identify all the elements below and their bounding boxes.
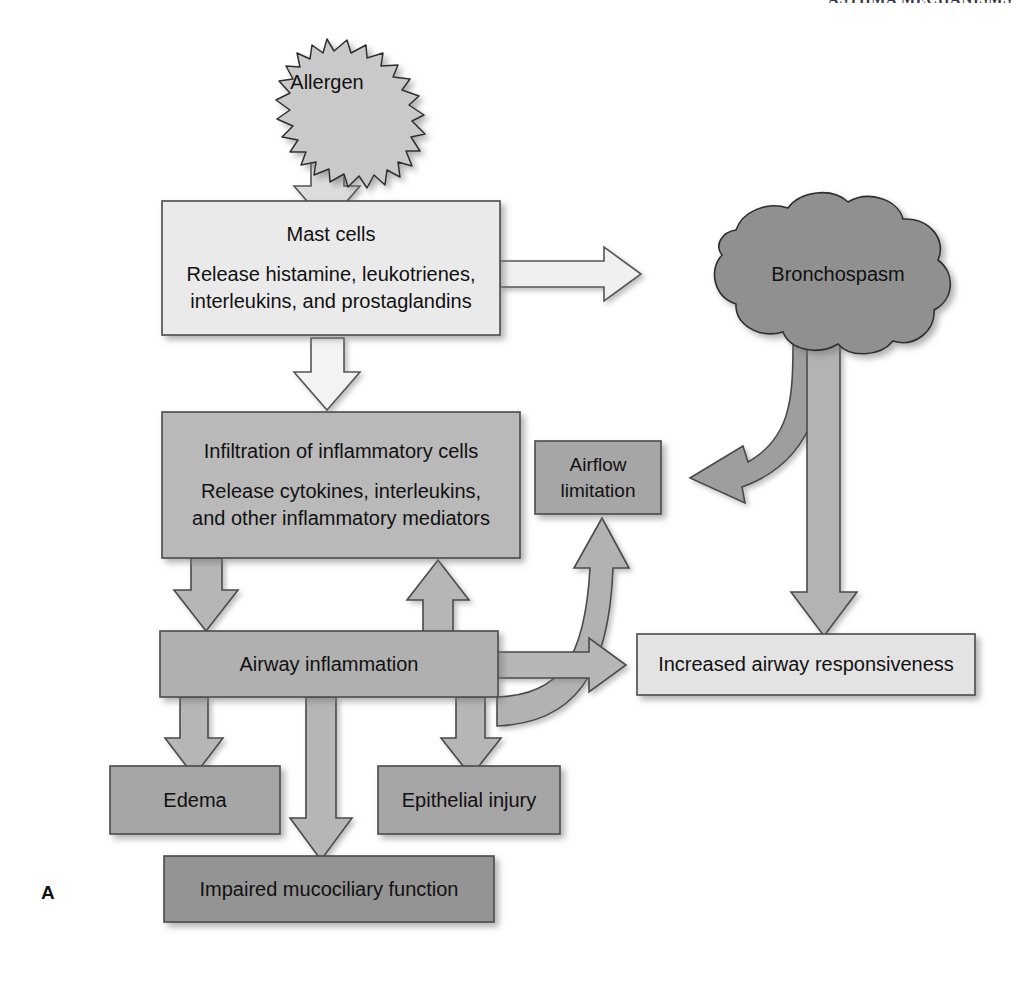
node-airflow-limitation <box>535 441 661 514</box>
edge-airway-inflammation-to-epithelial-injury <box>441 697 501 776</box>
panel-letter: A <box>41 882 55 904</box>
node-airway-inflammation <box>160 631 498 697</box>
node-bronchospasm <box>714 193 950 354</box>
node-impaired-mucociliary <box>164 856 494 922</box>
node-mast-cells <box>162 201 500 335</box>
node-allergen <box>276 39 425 188</box>
edge-infiltration-to-airway-inflammation <box>174 558 238 631</box>
edge-airway-inflammation-to-edema <box>165 697 223 776</box>
node-edema <box>110 766 280 834</box>
edge-mast-cells-to-bronchospasm <box>500 247 641 301</box>
page-header-text: ASTHMA MECHANISMS <box>742 0 1012 3</box>
figure-canvas: Allergen Mast cells Release histamine, l… <box>0 0 1018 988</box>
edge-bronchospasm-to-airflow-limitation <box>690 345 825 503</box>
node-increased-responsiveness <box>637 634 975 695</box>
edge-mast-cells-to-infiltration <box>294 338 360 410</box>
edge-airway-inflammation-to-infiltration <box>407 560 469 636</box>
node-epithelial-injury <box>378 766 560 834</box>
node-infiltration <box>162 412 520 558</box>
edge-airway-inflammation-to-impaired-mucociliary <box>290 697 352 860</box>
asthma-pathophysiology-diagram <box>0 0 1018 988</box>
